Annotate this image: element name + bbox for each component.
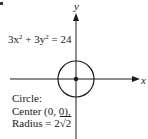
y-axis-label: y: [74, 0, 79, 12]
x-axis-label: x: [141, 74, 146, 86]
equation-term-x: 3x: [8, 33, 19, 45]
info-line-radius: Radius = 2√2: [12, 117, 71, 130]
info-line-center: Center (0, 0),: [12, 105, 71, 118]
radius-radical: √2: [60, 117, 72, 129]
equation-label: 3x2 + 3y2 = 24: [8, 33, 71, 45]
circle-info-label: Circle: Center (0, 0), Radius = 2√2: [12, 92, 71, 130]
equation-term-y: + 3y: [23, 33, 46, 45]
x-axis-arrow-icon: [132, 76, 140, 82]
equation-rhs: = 24: [49, 33, 72, 45]
center-point: [74, 77, 78, 81]
radius-prefix: Radius = 2: [12, 117, 60, 129]
circle-graph-figure: y x 3x2 + 3y2 = 24 Circle: Center (0, 0)…: [0, 0, 148, 139]
y-axis-arrow-icon: [73, 13, 79, 21]
info-line-type: Circle:: [12, 92, 71, 105]
